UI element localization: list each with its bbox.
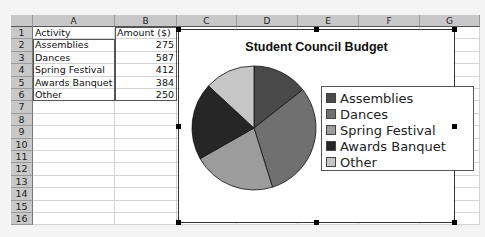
cell-a13[interactable] [33, 176, 115, 188]
legend-label: Other [340, 155, 377, 170]
cell-a6[interactable]: Other [33, 89, 115, 101]
legend-label: Assemblies [340, 91, 413, 106]
resize-handle-tl[interactable] [176, 27, 181, 32]
row-header-16[interactable]: 16 [11, 213, 33, 225]
cell-b7[interactable] [115, 101, 177, 113]
resize-handle-bm[interactable] [314, 220, 319, 225]
cell-b5[interactable]: 384 [115, 77, 177, 89]
resize-handle-br[interactable] [452, 220, 457, 225]
pie-chart[interactable]: Student Council Budget AssembliesDancesS… [178, 29, 455, 223]
row-header-3[interactable]: 3 [11, 52, 33, 64]
cell-b6[interactable]: 250 [115, 89, 177, 101]
row-header-15[interactable]: 15 [11, 201, 33, 213]
cell-a15[interactable] [33, 201, 115, 213]
cell-b4[interactable]: 412 [115, 64, 177, 76]
legend-label: Awards Banquet [340, 139, 446, 154]
cell-b15[interactable] [115, 201, 177, 213]
cell-b8[interactable] [115, 114, 177, 126]
cell-b9[interactable] [115, 126, 177, 138]
cell-a4[interactable]: Spring Festival [33, 64, 115, 76]
cell-a11[interactable] [33, 151, 115, 163]
resize-handle-ml[interactable] [176, 124, 181, 129]
row-header-6[interactable]: 6 [11, 89, 33, 101]
cell-a12[interactable] [33, 163, 115, 175]
row-header-1[interactable]: 1 [11, 27, 33, 39]
cell-a3[interactable]: Dances [33, 52, 115, 64]
legend-item-spring-festival[interactable]: Spring Festival [326, 122, 436, 138]
cell-a9[interactable] [33, 126, 115, 138]
legend-item-awards-banquet[interactable]: Awards Banquet [326, 138, 446, 154]
row-header-4[interactable]: 4 [11, 64, 33, 76]
row-header-10[interactable]: 10 [11, 139, 33, 151]
cell-a1[interactable]: Activity [33, 27, 115, 39]
cell-b3[interactable]: 587 [115, 52, 177, 64]
legend-label: Spring Festival [340, 123, 436, 138]
cell-b16[interactable] [115, 213, 177, 225]
resize-handle-bl[interactable] [176, 220, 181, 225]
cell-a5[interactable]: Awards Banquet [33, 77, 115, 89]
resize-handle-mr[interactable] [452, 124, 457, 129]
row-header-11[interactable]: 11 [11, 151, 33, 163]
resize-handle-tm[interactable] [314, 27, 319, 32]
cell-b14[interactable] [115, 188, 177, 200]
cell-b1[interactable]: Amount ($) [115, 27, 177, 39]
cell-a7[interactable] [33, 101, 115, 113]
legend-swatch [326, 109, 336, 119]
cell-b12[interactable] [115, 163, 177, 175]
cell-b2[interactable]: 275 [115, 39, 177, 51]
cell-a10[interactable] [33, 139, 115, 151]
row-header-12[interactable]: 12 [11, 163, 33, 175]
cell-a16[interactable] [33, 213, 115, 225]
column-header-c[interactable]: C [177, 15, 237, 27]
cell-a8[interactable] [33, 114, 115, 126]
cell-b10[interactable] [115, 139, 177, 151]
resize-handle-tr[interactable] [452, 27, 457, 32]
row-header-13[interactable]: 13 [11, 176, 33, 188]
legend-item-dances[interactable]: Dances [326, 106, 388, 122]
legend-item-other[interactable]: Other [326, 154, 377, 170]
row-header-7[interactable]: 7 [11, 101, 33, 113]
column-header-a[interactable]: A [33, 15, 115, 27]
legend-swatch [326, 141, 336, 151]
column-header-e[interactable]: E [298, 15, 359, 27]
column-header-f[interactable]: F [359, 15, 420, 27]
cell-b11[interactable] [115, 151, 177, 163]
column-header-g[interactable]: G [420, 15, 480, 27]
legend-item-assemblies[interactable]: Assemblies [326, 90, 413, 106]
row-header-5[interactable]: 5 [11, 77, 33, 89]
select-all-corner[interactable] [11, 15, 33, 27]
row-header-14[interactable]: 14 [11, 188, 33, 200]
legend-swatch [326, 125, 336, 135]
legend-swatch [326, 157, 336, 167]
row-header-9[interactable]: 9 [11, 126, 33, 138]
column-header-d[interactable]: D [237, 15, 298, 27]
row-header-2[interactable]: 2 [11, 39, 33, 51]
legend-label: Dances [340, 107, 388, 122]
cell-a14[interactable] [33, 188, 115, 200]
row-header-8[interactable]: 8 [11, 114, 33, 126]
cell-b13[interactable] [115, 176, 177, 188]
column-header-b[interactable]: B [115, 15, 177, 27]
cell-a2[interactable]: Assemblies [33, 39, 115, 51]
legend-swatch [326, 93, 336, 103]
